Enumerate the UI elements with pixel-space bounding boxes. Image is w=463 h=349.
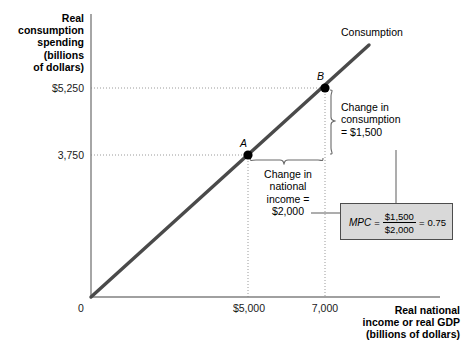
change-in-consumption-brace (330, 90, 335, 154)
y-axis-title: Real consumption spending (billions of d… (0, 12, 84, 73)
mpc-denominator: $2,000 (383, 223, 416, 235)
change-in-national-income-brace (250, 158, 323, 164)
y-tick-label-5250: $5,250 (10, 83, 84, 95)
x-tick-label-origin: 0 (74, 303, 88, 315)
mpc-fraction: $1,500 $2,000 (383, 211, 416, 235)
consumption-function-chart: Real consumption spending (billions of d… (0, 0, 463, 349)
consumption-curve-label: Consumption (341, 27, 403, 39)
y-tick-label-3750: 3,750 (10, 150, 84, 162)
point-a-label: A (240, 138, 247, 150)
point-b-label: B (317, 71, 324, 83)
x-tick-label-5000: $5,000 (220, 303, 278, 315)
data-point-a (243, 150, 252, 159)
change-in-national-income-label: Change in national income = $2,000 (245, 168, 331, 218)
mpc-label: MPC (349, 217, 371, 228)
mpc-callout-box: MPC = $1,500 $2,000 = 0.75 (340, 203, 453, 240)
mpc-result-value: 0.75 (427, 217, 446, 228)
mpc-equals-sign: = (374, 217, 380, 228)
data-point-b (320, 83, 329, 92)
change-in-consumption-label: Change in consumption = $1,500 (341, 101, 425, 138)
mpc-formula: MPC = $1,500 $2,000 = 0.75 (341, 204, 454, 241)
mpc-numerator: $1,500 (383, 211, 416, 223)
mpc-result-equals-sign: = (419, 217, 425, 228)
x-tick-label-7000: 7,000 (299, 303, 351, 315)
